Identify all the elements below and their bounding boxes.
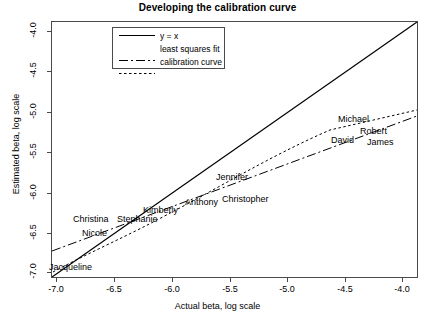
- ytick-label-4: -5.5: [28, 131, 38, 171]
- plot-frame: [51, 21, 418, 278]
- legend-label-identity: y = x: [160, 30, 178, 43]
- point-label-michael: Michael: [338, 114, 369, 124]
- xtick-label-6: -4.5: [325, 284, 365, 294]
- ytick-mark-6: [47, 233, 51, 234]
- ytick-mark-2: [47, 71, 51, 72]
- ytick-label-3: -5.0: [28, 91, 38, 131]
- point-label-david: David: [331, 135, 354, 145]
- legend: y = x least squares fit calibration curv…: [112, 27, 225, 69]
- legend-item-calibration[interactable]: calibration curve: [113, 56, 226, 69]
- ytick-mark-7: [47, 272, 51, 273]
- chart-root: Developing the calibration curve -7.0 -6…: [0, 0, 435, 321]
- ytick-label-1: -4.0: [28, 10, 38, 50]
- legend-key-solid-icon: [119, 35, 155, 38]
- ytick-label-2: -4.5: [28, 50, 38, 90]
- point-label-james: James: [367, 137, 394, 147]
- point-label-christina: Christina: [73, 214, 109, 224]
- ytick-mark-5: [47, 193, 51, 194]
- legend-key-dashdot-icon: [119, 48, 155, 50]
- ytick-label-5: -6.0: [28, 172, 38, 212]
- ytick-label-6: -6.5: [28, 212, 38, 252]
- xtick-mark-4: [230, 278, 231, 282]
- xtick-mark-1: [56, 278, 57, 282]
- x-axis-label: Actual beta, log scale: [0, 301, 435, 311]
- ytick-mark-3: [47, 112, 51, 113]
- point-label-anthony: Anthony: [185, 197, 218, 207]
- point-label-christopher: Christopher: [222, 194, 269, 204]
- xtick-mark-7: [402, 278, 403, 282]
- point-label-robert: Robert: [360, 126, 387, 136]
- point-label-stephanie: Stephanie: [117, 214, 158, 224]
- legend-item-identity[interactable]: y = x: [113, 30, 226, 43]
- xtick-label-4: -5.5: [210, 284, 250, 294]
- xtick-mark-2: [114, 278, 115, 282]
- xtick-label-1: -7.0: [36, 284, 76, 294]
- ytick-mark-1: [47, 31, 51, 32]
- point-label-kimberly: Kimberly: [143, 205, 178, 215]
- ytick-mark-4: [47, 152, 51, 153]
- xtick-label-7: -4.0: [382, 284, 422, 294]
- point-label-nicole: Nicole: [82, 228, 107, 238]
- xtick-label-2: -6.5: [94, 284, 134, 294]
- legend-label-calibration: calibration curve: [160, 56, 222, 69]
- xtick-mark-5: [287, 278, 288, 282]
- point-label-jennifer: Jennifer: [216, 172, 248, 182]
- legend-item-least-squares[interactable]: least squares fit: [113, 43, 226, 56]
- legend-label-least-squares: least squares fit: [160, 43, 220, 56]
- xtick-label-3: -6.0: [152, 284, 192, 294]
- xtick-mark-3: [172, 278, 173, 282]
- y-axis-label: Estimated beta, log scale: [11, 74, 21, 214]
- ytick-label-7: -7.0: [28, 251, 38, 291]
- legend-key-dotted-icon: [119, 61, 155, 63]
- point-label-jacqueline: Jacqueline: [49, 262, 92, 272]
- xtick-label-5: -5.0: [267, 284, 307, 294]
- xtick-mark-6: [345, 278, 346, 282]
